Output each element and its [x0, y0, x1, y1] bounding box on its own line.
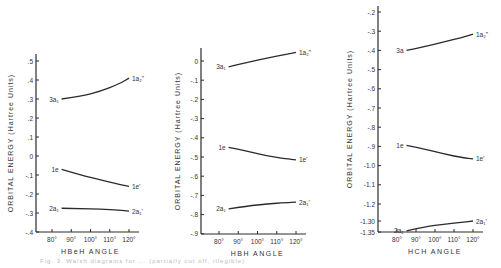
y-tick-label: -1.1: [364, 181, 376, 188]
figure-caption: Fig. 3. Walsh diagrams for ... (partiall…: [40, 258, 480, 268]
x-tick-label: 120°: [122, 236, 136, 243]
orbital-right-label: 1a₂": [299, 49, 312, 56]
y-tick-label: -.1: [190, 77, 198, 84]
x-tick-label: 110°: [448, 236, 461, 243]
y-tick-label: -.1: [25, 172, 33, 179]
y-tick-label: -.2: [190, 96, 198, 103]
chart-panel-hch: -.2-.3-.4-.5-.6-.7-.8-.9-1.0-1.1-1.2-1.3…: [346, 6, 489, 255]
orbital-right-label: 2a₁': [132, 208, 143, 215]
orbital-left-label: 3a₁: [216, 63, 226, 70]
y-axis-label: ORBITAL ENERGY (Hartree Units): [174, 72, 182, 210]
orbital-right-label: 1e': [476, 155, 484, 162]
orbital-left-label: 2a₁: [49, 205, 59, 212]
orbital-curve-0: [62, 78, 129, 99]
y-tick-label: -.7: [367, 105, 375, 112]
orbital-left-label: 2a₁: [394, 227, 404, 234]
y-tick-label: -.8: [367, 124, 375, 131]
y-tick-label: -.4: [190, 134, 198, 141]
x-tick-label: 90°: [66, 236, 76, 243]
y-tick-label: -.9: [190, 230, 198, 237]
y-axis-label: ORBITAL ENERGY (Hartree Units): [346, 50, 354, 188]
y-tick-label: -.8: [190, 211, 198, 218]
y-tick-label: -1.35: [360, 229, 375, 236]
orbital-right-label: 1e': [132, 183, 140, 190]
orbital-right-label: 2a₁': [299, 199, 310, 206]
orbital-left-label: 1e: [51, 166, 59, 173]
orbital-curve-0: [407, 34, 474, 50]
orbital-curve-1: [407, 145, 474, 158]
y-tick-label: -.5: [190, 154, 198, 161]
y-tick-label: .2: [28, 115, 34, 122]
orbital-curve-0: [229, 52, 296, 66]
y-tick-label: -.4: [25, 229, 33, 236]
y-tick-label: -.5: [367, 66, 375, 73]
y-tick-label: .5: [28, 58, 34, 65]
x-axis-label: HBH ANGLE: [231, 250, 285, 257]
y-tick-label: .3: [28, 96, 34, 103]
orbital-curve-2: [229, 202, 296, 209]
y-tick-label: -1.30: [360, 218, 375, 225]
y-tick-label: -.3: [25, 210, 33, 217]
y-tick-label: 0: [29, 153, 33, 160]
y-tick-label: .1: [28, 134, 34, 141]
x-tick-label: 110°: [103, 236, 116, 243]
chart-panel-hbh: 0-.1-.2-.3-.4-.5-.6-.7-.8-.980°90°100°11…: [174, 48, 312, 257]
x-tick-label: 100°: [251, 238, 265, 245]
x-tick-label: 120°: [466, 236, 480, 243]
x-tick-label: 80°: [214, 238, 224, 245]
orbital-left-label: 1e: [218, 144, 226, 151]
orbital-curve-1: [62, 169, 129, 186]
orbital-right-label: 1e': [299, 156, 307, 163]
y-tick-label: -.3: [367, 28, 375, 35]
orbital-curve-1: [229, 147, 296, 159]
x-tick-label: 100°: [84, 236, 98, 243]
orbital-curve-2: [62, 208, 129, 211]
y-tick-label: -1.0: [364, 162, 376, 169]
orbital-right-label: 2a₁': [476, 218, 487, 225]
y-tick-label: -.3: [190, 115, 198, 122]
y-tick-label: -.6: [367, 85, 375, 92]
y-tick-label: -.6: [190, 173, 198, 180]
x-axis-label: HCH ANGLE: [408, 248, 462, 255]
x-tick-label: 90°: [233, 238, 243, 245]
y-tick-label: -.7: [190, 192, 198, 199]
x-tick-label: 90°: [411, 236, 421, 243]
x-tick-label: 110°: [270, 238, 283, 245]
y-tick-label: .4: [28, 77, 34, 84]
x-axis-label: HBeH ANGLE: [61, 248, 120, 255]
x-tick-label: 80°: [47, 236, 57, 243]
y-tick-label: -.9: [367, 143, 375, 150]
y-axis-label: ORBITAL ENERGY (Hartree Units): [7, 74, 15, 212]
orbital-left-label: 3a: [396, 47, 404, 54]
x-tick-label: 80°: [392, 236, 402, 243]
orbital-right-label: 1a₂": [476, 31, 489, 38]
orbital-left-label: 2a₁: [216, 205, 226, 212]
y-tick-label: -.2: [367, 9, 375, 16]
y-tick-label: -.4: [367, 47, 375, 54]
y-tick-label: -.2: [25, 191, 33, 198]
y-tick-label: -1.2: [364, 201, 376, 208]
orbital-left-label: 3a₁: [49, 96, 59, 103]
orbital-right-label: 1a₂": [132, 75, 145, 82]
x-tick-label: 120°: [289, 238, 303, 245]
y-tick-label: 0: [194, 58, 198, 65]
orbital-left-label: 1e: [396, 142, 404, 149]
chart-panel-hbeh: .5.4.3.2.10-.1-.2-.3-.480°90°100°110°120…: [7, 54, 145, 255]
x-tick-label: 100°: [428, 236, 442, 243]
walsh-diagram-figure: .5.4.3.2.10-.1-.2-.3-.480°90°100°110°120…: [0, 0, 501, 268]
